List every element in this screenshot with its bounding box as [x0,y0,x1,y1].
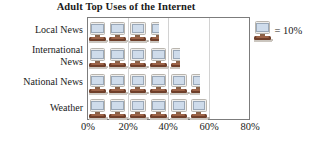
computer-monitor-icon [108,98,128,121]
pictograph-row-international-news [88,45,180,70]
computer-monitor-icon [253,20,273,43]
y-axis-labels: Local News International News National N… [0,17,83,120]
computer-monitor-icon [129,98,149,121]
computer-monitor-icon [149,47,169,70]
pictograph-row-weather [88,96,210,121]
y-axis-label-local-news: Local News [0,24,83,36]
pictograph-icon [88,47,108,70]
computer-monitor-icon [170,73,190,96]
computer-monitor-icon [129,21,149,44]
pictograph-icon [108,98,128,121]
computer-monitor-icon [149,21,159,44]
pictograph-icon [170,73,190,96]
computer-monitor-icon [253,20,273,43]
pictograph-icon [88,73,108,96]
computer-monitor-icon [190,98,210,121]
x-axis-tick-60: 60% [189,121,229,132]
computer-monitor-icon [108,73,128,96]
pictograph-icon [149,47,169,70]
computer-monitor-icon [190,73,200,96]
y-axis-label-national-news: National News [0,76,83,88]
x-axis-tick-40: 40% [148,121,188,132]
computer-monitor-icon [170,98,190,121]
computer-monitor-icon [108,47,128,70]
chart-title: Adult Top Uses of the Internet [0,1,252,12]
computer-monitor-icon [170,47,180,70]
pictograph-icon [170,98,190,121]
computer-monitor-icon [88,21,108,44]
x-axis-tick-20: 20% [108,121,148,132]
computer-monitor-icon [129,73,149,96]
pictograph-icon [190,98,210,121]
pictograph-icon [129,98,149,121]
computer-monitor-icon [88,98,108,121]
pictograph-icon [129,47,149,70]
pictograph-chart: Adult Top Uses of the Internet Local New… [0,0,315,149]
y-axis-label-international-news: International News [0,44,83,67]
pictograph-icon-partial [149,21,159,44]
pictograph-icon-partial [190,73,200,96]
pictograph-row-local-news [88,19,159,44]
pictograph-row-national-news [88,71,200,96]
x-axis-tick-0: 0% [68,121,108,132]
pictograph-icon [129,73,149,96]
legend: = 10% [253,20,302,43]
computer-monitor-icon [108,21,128,44]
pictograph-icon [88,21,108,44]
pictograph-icon-partial [170,47,180,70]
computer-monitor-icon [149,98,169,121]
pictograph-icon [149,73,169,96]
y-axis-label-weather: Weather [0,102,83,114]
pictograph-icon [108,73,128,96]
pictograph-icon [88,98,108,121]
x-axis-labels: 0% 20% 40% 60% 80% [0,121,315,137]
pictograph-icon [108,47,128,70]
plot-area [87,17,250,120]
computer-monitor-icon [129,47,149,70]
pictograph-icon [129,21,149,44]
pictograph-icon [108,21,128,44]
legend-label: = 10% [274,25,302,39]
computer-monitor-icon [149,73,169,96]
x-axis-tick-80: 80% [230,121,270,132]
pictograph-icon [149,98,169,121]
computer-monitor-icon [88,73,108,96]
computer-monitor-icon [88,47,108,70]
